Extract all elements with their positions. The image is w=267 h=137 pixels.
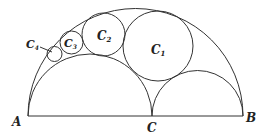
label-b: B bbox=[245, 111, 256, 125]
label-c: C bbox=[147, 121, 157, 135]
label-c2: C2 bbox=[97, 29, 112, 44]
semicircle-ab bbox=[28, 8, 243, 116]
semicircle-cb bbox=[152, 71, 243, 116]
semicircle-ac bbox=[28, 54, 152, 116]
label-c1: C1 bbox=[151, 43, 165, 58]
label-a: A bbox=[11, 115, 21, 129]
label-c4: C4 bbox=[26, 38, 39, 51]
circle-c4 bbox=[47, 47, 62, 62]
arbelos-diagram: A B C C1 C2 C3 C4 bbox=[0, 0, 267, 137]
label-c3: C3 bbox=[64, 37, 77, 50]
